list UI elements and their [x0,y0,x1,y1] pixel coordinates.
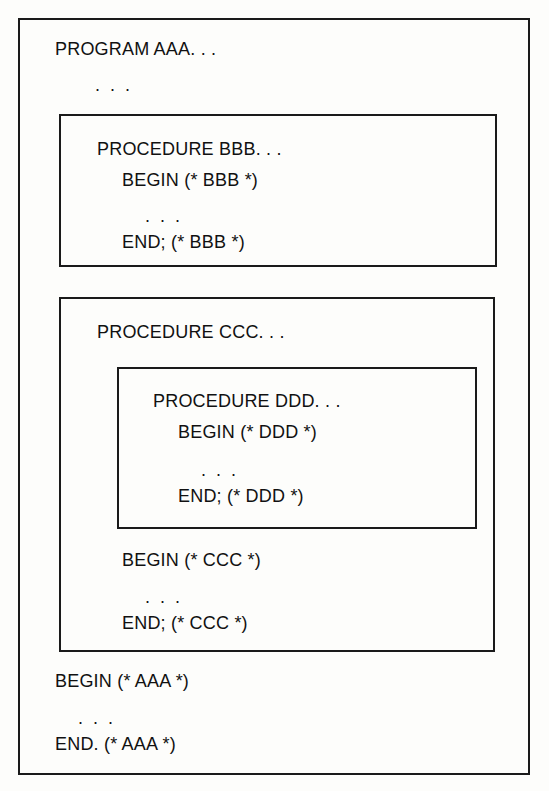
procedure-block-bbb: PROCEDURE BBB. . . BEGIN (* BBB *) . . .… [59,114,497,267]
procedure-begin-bbb: BEGIN (* BBB *) [122,171,258,189]
procedure-ellipsis-bbb: . . . [145,207,183,225]
procedure-end-ddd: END; (* DDD *) [178,487,304,505]
procedure-header-ccc: PROCEDURE CCC. . . [97,323,285,341]
procedure-header-ddd: PROCEDURE DDD. . . [153,392,341,410]
procedure-ellipsis-ddd: . . . [201,461,239,479]
procedure-end-ccc: END; (* CCC *) [122,614,248,632]
procedure-ellipsis-ccc: . . . [145,588,183,606]
program-block-aaa: PROGRAM AAA. . . . . . PROCEDURE BBB. . … [18,18,530,775]
program-structure-figure: PROGRAM AAA. . . . . . PROCEDURE BBB. . … [0,0,549,791]
program-begin-aaa: BEGIN (* AAA *) [55,672,189,690]
program-ellipsis-aaa: . . . [78,709,116,727]
program-end-aaa: END. (* AAA *) [55,735,176,753]
program-body-ellipsis-aaa: . . . [95,76,133,94]
procedure-block-ccc: PROCEDURE CCC. . . PROCEDURE DDD. . . BE… [59,297,495,652]
procedure-header-bbb: PROCEDURE BBB. . . [97,140,282,158]
procedure-block-ddd: PROCEDURE DDD. . . BEGIN (* DDD *) . . .… [117,367,477,529]
procedure-begin-ccc: BEGIN (* CCC *) [122,551,261,569]
procedure-end-bbb: END; (* BBB *) [122,233,245,251]
program-header-aaa: PROGRAM AAA. . . [55,40,216,58]
procedure-begin-ddd: BEGIN (* DDD *) [178,423,317,441]
